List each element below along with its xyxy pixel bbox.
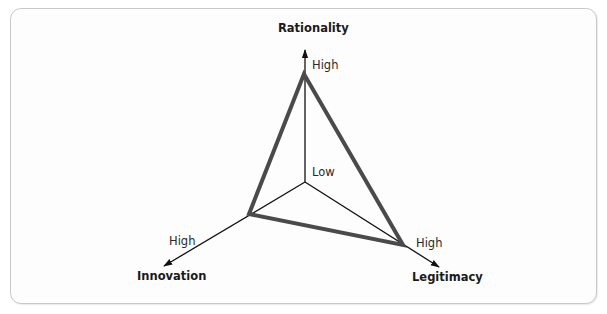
radar-diagram: [0, 0, 607, 314]
legitimacy-label: Legitimacy: [412, 270, 483, 284]
innovation-axis: [164, 182, 305, 266]
profile-triangle: [249, 74, 403, 245]
rationality-label: Rationality: [278, 21, 349, 35]
rationality-high-label: High: [312, 58, 338, 72]
legitimacy-high-label: High: [416, 236, 442, 250]
center-low-label: Low: [312, 165, 335, 179]
innovation-label: Innovation: [137, 269, 206, 283]
innovation-high-label: High: [169, 234, 195, 248]
